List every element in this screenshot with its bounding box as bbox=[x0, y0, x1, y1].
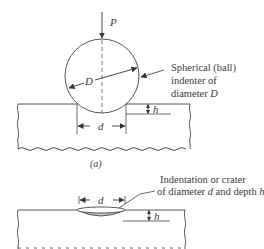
figure-caption-a: (a) bbox=[90, 158, 102, 170]
depth-label-b: h bbox=[154, 210, 160, 222]
crater bbox=[77, 207, 125, 216]
figure-b: d Indentation or crater of diameter d an… bbox=[17, 174, 264, 249]
indent-diameter-label-a: d bbox=[98, 120, 104, 132]
diameter-arrow-icon bbox=[69, 83, 84, 88]
depth-dimension-a bbox=[126, 105, 171, 115]
hardness-test-diagram: P D Spherical (ball) indenter of diamete… bbox=[0, 0, 264, 249]
ball-callout: Spherical (ball) indenter of diameter D bbox=[171, 62, 239, 99]
diameter-label: D bbox=[84, 75, 93, 87]
workpiece-block-a bbox=[17, 104, 190, 151]
indent-diameter-label-b: d bbox=[98, 194, 104, 206]
figure-a: P D Spherical (ball) indenter of diamete… bbox=[17, 12, 238, 170]
diameter-arrow-right-icon bbox=[95, 68, 137, 80]
ball-leader-line bbox=[141, 70, 164, 77]
load-label: P bbox=[109, 16, 117, 28]
depth-label-a: h bbox=[153, 103, 159, 115]
crater-leader-line bbox=[119, 191, 155, 208]
depth-dimension-b bbox=[123, 211, 170, 222]
crater-callout: Indentation or crater of diameter d and … bbox=[157, 174, 264, 197]
